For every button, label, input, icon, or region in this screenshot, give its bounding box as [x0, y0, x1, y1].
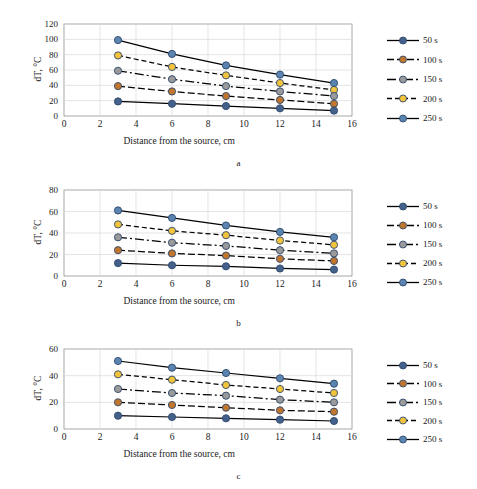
data-point	[276, 247, 283, 254]
chart-panel-a: 0204060801001200246810121416Distance fro…	[0, 0, 477, 172]
legend-swatch-150-s	[386, 397, 420, 408]
legend-item-150-s[interactable]: 150 s	[386, 238, 442, 250]
legend-item-250-s[interactable]: 250 s	[386, 112, 442, 124]
legend-item-250-s[interactable]: 250 s	[386, 433, 442, 445]
figure-page: 0204060801001200246810121416Distance fro…	[0, 0, 477, 489]
legend-label: 50 s	[423, 360, 438, 370]
legend-label: 250 s	[423, 277, 442, 287]
data-point	[114, 207, 121, 214]
data-point	[330, 408, 337, 415]
data-point	[222, 252, 229, 259]
x-tick-label: 4	[134, 120, 139, 130]
data-point	[222, 263, 229, 270]
data-point	[330, 257, 337, 264]
y-tick-label: 40	[0, 81, 58, 90]
x-tick-label: 0	[62, 280, 67, 290]
data-point	[114, 371, 121, 378]
legend-label: 250 s	[423, 113, 442, 123]
data-point	[276, 385, 283, 392]
y-tick-label: 20	[0, 250, 58, 259]
data-point	[222, 404, 229, 411]
legend-swatch-200-s	[386, 93, 420, 104]
data-point	[276, 237, 283, 244]
legend-item-50-s[interactable]: 50 s	[386, 359, 438, 371]
x-tick-label: 2	[98, 280, 103, 290]
data-point	[168, 364, 175, 371]
data-point	[222, 83, 229, 90]
data-point	[276, 228, 283, 235]
data-point	[114, 221, 121, 228]
legend-swatch-200-s	[386, 258, 420, 269]
data-point	[276, 255, 283, 262]
x-tick-label: 8	[206, 433, 211, 443]
legend-swatch-100-s	[386, 54, 420, 65]
data-point	[114, 399, 121, 406]
legend-label: 150 s	[423, 397, 442, 407]
x-tick-label: 0	[62, 120, 67, 130]
data-point	[114, 260, 121, 267]
data-point	[330, 234, 337, 241]
data-point	[114, 412, 121, 419]
y-tick-label: 120	[0, 20, 58, 29]
legend-label: 150 s	[423, 74, 442, 84]
data-point	[330, 380, 337, 387]
data-point	[168, 63, 175, 70]
data-point	[114, 83, 121, 90]
data-point	[168, 376, 175, 383]
data-point	[114, 67, 121, 74]
x-tick-label: 14	[311, 120, 321, 130]
y-tick-label: 60	[0, 66, 58, 75]
legend-swatch-50-s	[386, 360, 420, 371]
data-point	[168, 76, 175, 83]
legend-item-200-s[interactable]: 200 s	[386, 415, 442, 427]
data-point	[168, 214, 175, 221]
data-point	[168, 239, 175, 246]
x-tick-label: 10	[239, 280, 249, 290]
legend-swatch-50-s	[386, 35, 420, 46]
legend-a: 50 s100 s150 s200 s250 s	[380, 0, 477, 172]
data-point	[330, 92, 337, 99]
x-tick-label: 12	[275, 433, 285, 443]
legend-item-50-s[interactable]: 50 s	[386, 200, 438, 212]
x-axis-title: Distance from the source, cm	[0, 136, 358, 146]
x-tick-label: 4	[134, 280, 139, 290]
x-tick-label: 16	[347, 280, 357, 290]
legend-item-50-s[interactable]: 50 s	[386, 34, 438, 46]
legend-label: 100 s	[423, 379, 442, 389]
y-tick-label: 80	[0, 50, 58, 59]
data-point	[276, 375, 283, 382]
legend-swatch-250-s	[386, 113, 420, 124]
legend-item-150-s[interactable]: 150 s	[386, 396, 442, 408]
data-point	[222, 242, 229, 249]
legend-b: 50 s100 s150 s200 s250 s	[380, 172, 477, 335]
plot-c	[0, 335, 380, 489]
data-point	[276, 88, 283, 95]
data-point	[222, 232, 229, 239]
data-point	[330, 266, 337, 273]
x-tick-label: 2	[98, 433, 103, 443]
data-point	[222, 222, 229, 229]
data-point	[330, 241, 337, 248]
x-tick-label: 12	[275, 280, 285, 290]
legend-item-100-s[interactable]: 100 s	[386, 54, 442, 66]
y-tick-label: 60	[0, 345, 58, 354]
data-point	[276, 396, 283, 403]
data-point	[114, 357, 121, 364]
legend-label: 100 s	[423, 55, 442, 65]
legend-label: 200 s	[423, 258, 442, 268]
data-point	[168, 88, 175, 95]
y-tick-label: 20	[0, 398, 58, 407]
chart-panel-b: 0204060800246810121416Distance from the …	[0, 172, 477, 335]
legend-swatch-200-s	[386, 415, 420, 426]
data-point	[222, 381, 229, 388]
legend-item-200-s[interactable]: 200 s	[386, 257, 442, 269]
legend-item-250-s[interactable]: 250 s	[386, 276, 442, 288]
data-point	[276, 407, 283, 414]
legend-item-200-s[interactable]: 200 s	[386, 93, 442, 105]
y-tick-label: 60	[0, 207, 58, 216]
x-tick-label: 0	[62, 433, 67, 443]
legend-item-150-s[interactable]: 150 s	[386, 73, 442, 85]
data-point	[222, 72, 229, 79]
legend-item-100-s[interactable]: 100 s	[386, 378, 442, 390]
legend-item-100-s[interactable]: 100 s	[386, 219, 442, 231]
